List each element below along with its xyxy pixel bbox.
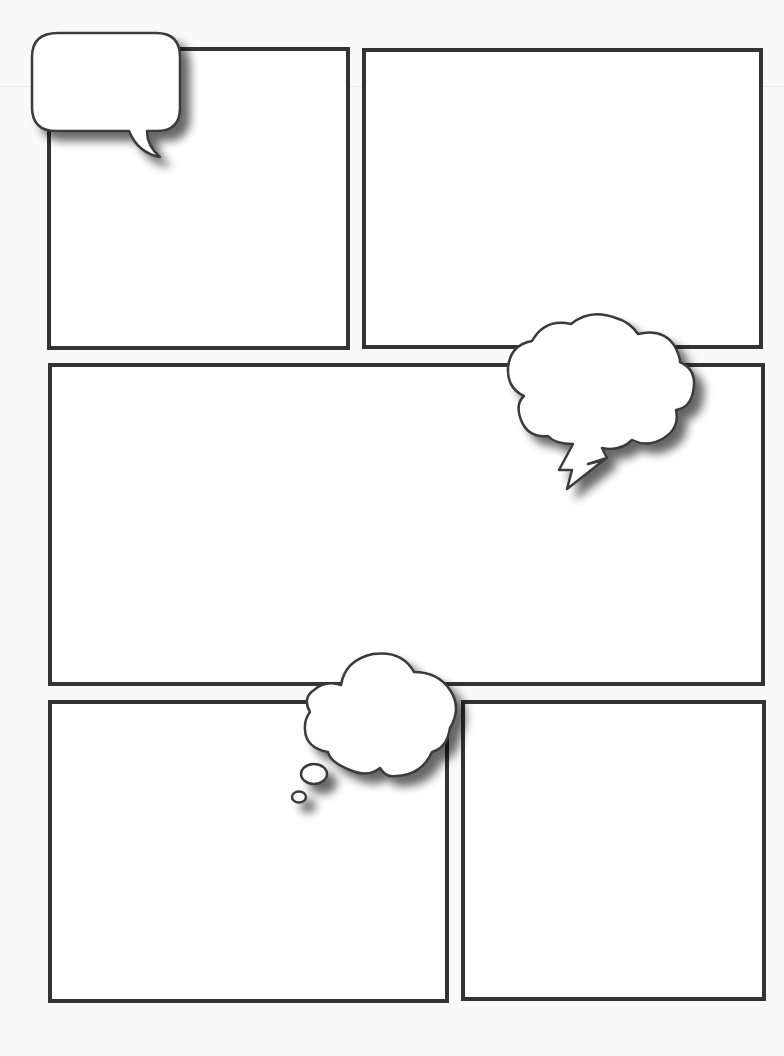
thought-dot-large <box>301 764 327 784</box>
panel-2[interactable] <box>362 48 763 349</box>
thought-dot-small <box>292 792 306 803</box>
panel-5[interactable] <box>461 700 766 1001</box>
